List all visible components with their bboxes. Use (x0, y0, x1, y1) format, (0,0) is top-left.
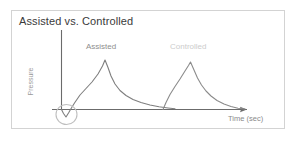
chart-title: Assisted vs. Controlled (19, 15, 133, 27)
figure-root: Assisted vs. Controlled Assisted Control… (0, 0, 298, 146)
series-label-assisted: Assisted (86, 42, 116, 51)
x-axis-arrowhead-icon (240, 107, 247, 112)
x-axis-label: Time (sec) (228, 114, 263, 123)
y-axis-label: Pressure (27, 49, 34, 115)
trigger-highlight-circle (56, 105, 77, 125)
assisted-waveform-path (62, 60, 176, 117)
controlled-waveform-path (163, 62, 245, 110)
series-label-controlled: Controlled (170, 42, 206, 51)
